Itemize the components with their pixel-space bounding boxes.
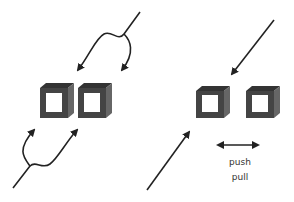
left-outgoing-split-arrow	[13, 130, 77, 188]
right-outgoing-arrow	[147, 132, 189, 190]
pull-label: pull	[220, 172, 260, 182]
left-channel-box-1	[40, 83, 74, 118]
right-channel-box-1	[196, 86, 230, 118]
left-channel-box-2	[78, 83, 112, 118]
left-incoming-split-arrow	[78, 12, 140, 70]
right-channel-box-2	[246, 86, 280, 118]
right-incoming-arrow	[232, 20, 274, 74]
push-label: push	[220, 157, 260, 167]
